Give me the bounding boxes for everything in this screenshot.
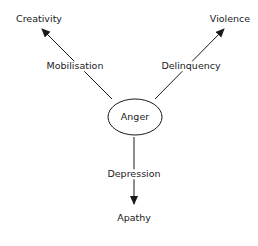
delinquency-edge-label: Delinquency [160, 61, 221, 71]
anger-label: Anger [120, 112, 150, 122]
depression-edge-label: Depression [106, 169, 161, 179]
violence-label: Violence [209, 14, 251, 24]
diagram-canvas [0, 0, 258, 246]
apathy-label: Apathy [116, 213, 152, 223]
mobilisation-edge-label: Mobilisation [46, 61, 105, 71]
creativity-label: Creativity [15, 14, 63, 24]
